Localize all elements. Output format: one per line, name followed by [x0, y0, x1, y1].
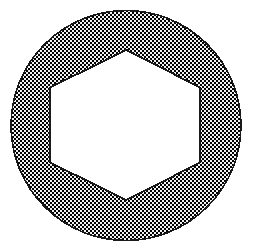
outer-circle-fill [11, 11, 241, 241]
washer-annulus-group [11, 11, 241, 241]
figure-canvas [0, 0, 255, 252]
hex-socket-washer-drawing [0, 0, 255, 252]
